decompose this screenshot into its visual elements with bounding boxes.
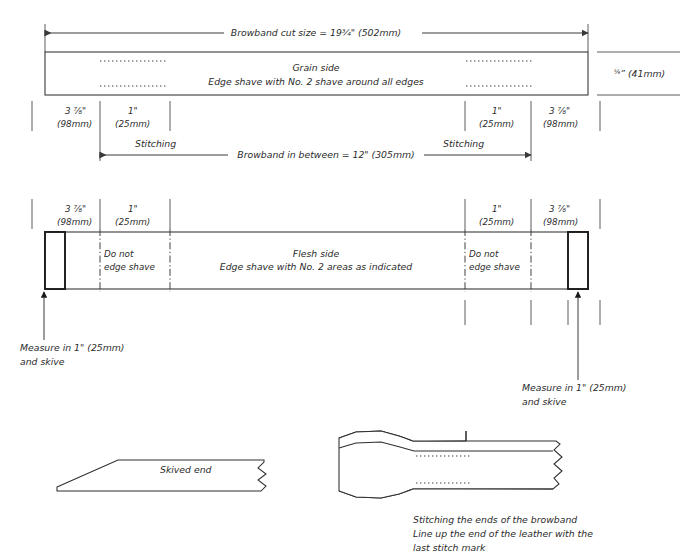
flesh-seg-3-mm: (98mm) <box>543 217 578 227</box>
measure-left-line1: Measure in 1" (25mm) <box>20 342 124 353</box>
grain-side-note: Edge shave with No. 2 shave around all e… <box>208 76 424 87</box>
flesh-seg-0-inches: 3 ⅞" <box>65 204 86 214</box>
flesh-seg-0-mm: (98mm) <box>57 217 92 227</box>
skived-end-figure: Skived end <box>57 460 266 491</box>
flesh-side-diagram: 3 ⅞" (98mm) 1" (25mm) 1" (25mm) 3 ⅞" (98… <box>20 199 626 407</box>
flesh-seg-3-inches: 3 ⅞" <box>549 204 570 214</box>
grain-seg-0-inches: 3 ⅞" <box>65 106 86 116</box>
flesh-seg-2-mm: (25mm) <box>479 217 514 227</box>
grain-seg-3-inches: 3 ⅞" <box>549 106 570 116</box>
grain-seg-1-mm: (25mm) <box>115 119 150 129</box>
stitching-label-left: Stitching <box>135 138 176 149</box>
grain-seg-0-mm: (98mm) <box>57 119 92 129</box>
skive-block-right <box>568 232 588 289</box>
no-edge-shave-left-line1: Do not <box>104 249 134 259</box>
grain-seg-2-inches: 1" <box>492 106 502 116</box>
measure-left-line2: and skive <box>20 356 65 367</box>
in-between-label: Browband in between = 12" (305mm) <box>237 149 414 160</box>
stitching-label-right: Stitching <box>443 138 484 149</box>
grain-seg-2-mm: (25mm) <box>479 119 514 129</box>
stitching-caption-line1: Stitching the ends of the browband <box>413 514 577 525</box>
stitching-caption-line3: last stitch mark <box>413 542 486 553</box>
skived-end-label: Skived end <box>160 464 212 475</box>
browband-diagram: Browband cut size = 19¾" (502mm) Grain s… <box>0 0 689 553</box>
measure-right-line1: Measure in 1" (25mm) <box>522 382 626 393</box>
flesh-side-note: Edge shave with No. 2 areas as indicated <box>220 261 412 272</box>
height-dim-label: ⅝” (41mm) <box>614 68 665 79</box>
grain-side-diagram: Browband cut size = 19¾" (502mm) Grain s… <box>32 24 680 161</box>
grain-side-title: Grain side <box>292 62 339 73</box>
cut-size-label: Browband cut size = 19¾" (502mm) <box>231 27 401 38</box>
skive-block-left <box>45 232 65 289</box>
grain-seg-1-inches: 1" <box>128 106 138 116</box>
measure-right-line2: and skive <box>522 396 567 407</box>
diagram-sheet: Browband cut size = 19¾" (502mm) Grain s… <box>0 0 689 553</box>
stitching-caption-line2: Line up the end of the leather with the <box>413 528 593 539</box>
no-edge-shave-right-line1: Do not <box>469 249 499 259</box>
flesh-seg-2-inches: 1" <box>492 204 502 214</box>
flesh-seg-1-inches: 1" <box>128 204 138 214</box>
no-edge-shave-right-line2: edge shave <box>469 262 521 272</box>
grain-seg-3-mm: (98mm) <box>543 119 578 129</box>
flesh-side-title: Flesh side <box>293 248 340 259</box>
flesh-seg-1-mm: (25mm) <box>115 217 150 227</box>
grain-side-panel <box>45 52 588 95</box>
no-edge-shave-left-line2: edge shave <box>104 262 156 272</box>
stitching-ends-figure: Stitching the ends of the browband Line … <box>339 431 593 553</box>
